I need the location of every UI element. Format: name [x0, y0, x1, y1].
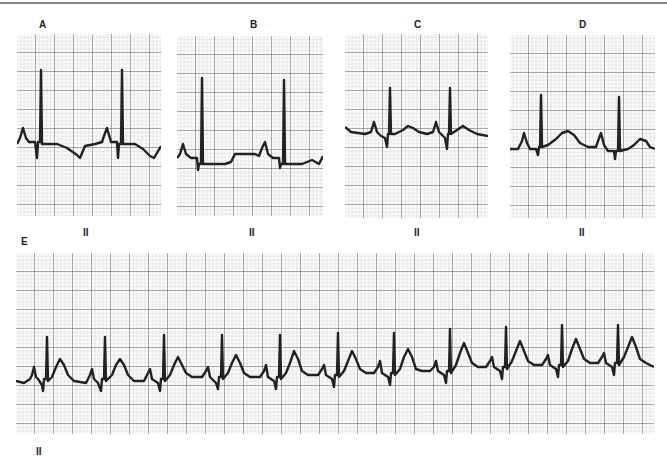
ecg-panel-a [17, 34, 161, 216]
panel-b-label: B [250, 19, 257, 30]
ecg-panel-d [510, 35, 655, 218]
panel-b-lead: II [249, 227, 255, 238]
ecg-trace-c [345, 34, 488, 218]
panel-d-lead: II [579, 227, 585, 238]
panel-c-label: C [414, 19, 421, 30]
ecg-trace-d [510, 35, 655, 218]
ecg-panel-e [16, 253, 654, 434]
ecg-trace-a [17, 34, 161, 216]
panel-c-lead: II [414, 227, 420, 238]
panel-a-label: A [39, 19, 46, 30]
panel-d-label: D [579, 19, 586, 30]
panel-a-lead: II [83, 227, 89, 238]
ecg-panel-c [345, 34, 488, 218]
panel-e-lead: II [36, 446, 42, 457]
top-rule [0, 2, 667, 4]
ecg-trace-e [16, 253, 654, 434]
ecg-trace-b [177, 36, 323, 216]
ecg-panel-b [177, 36, 323, 216]
panel-e-label: E [21, 236, 28, 247]
